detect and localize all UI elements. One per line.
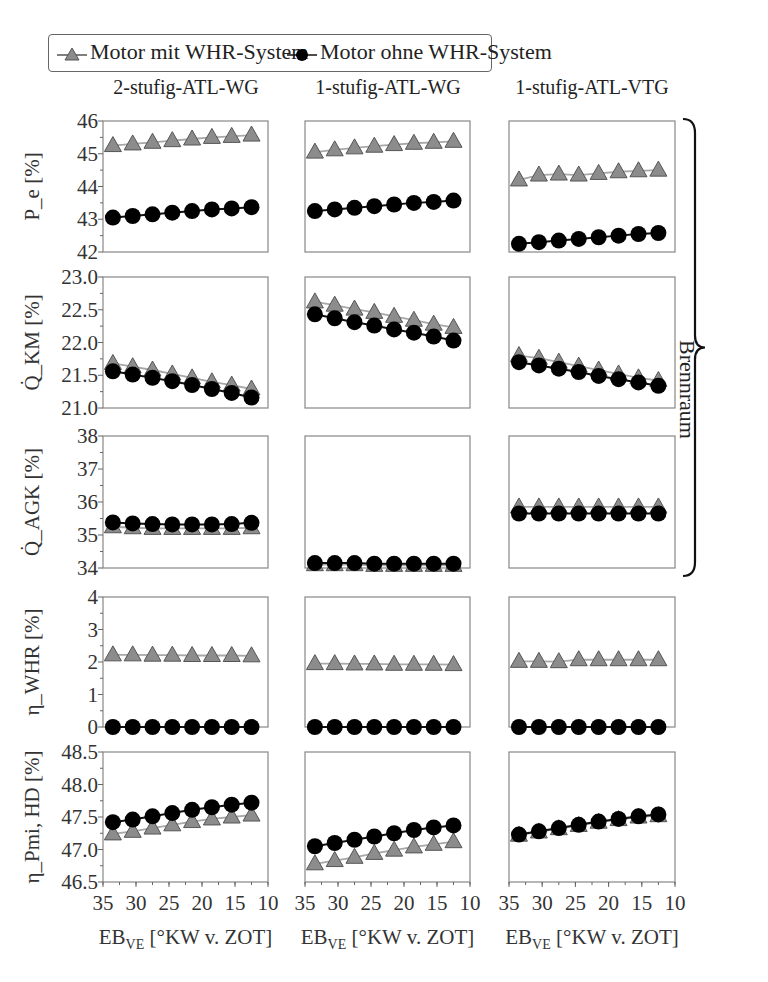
circle-marker	[204, 799, 220, 815]
y-tick-label: 45	[77, 142, 98, 166]
panel-r0-c1	[305, 121, 470, 252]
circle-marker	[164, 719, 180, 735]
x-tick-label: 30	[328, 891, 349, 915]
circle-marker	[224, 719, 240, 735]
x-tick-label: 20	[394, 891, 415, 915]
circle-marker	[611, 719, 627, 735]
circle-marker	[145, 516, 161, 532]
circle-marker	[307, 555, 323, 571]
circle-marker	[164, 805, 180, 821]
circle-marker	[446, 333, 462, 349]
panel-r1-c2	[509, 277, 675, 408]
y-tick-label: 0	[88, 715, 99, 739]
y-tick-label: 42	[77, 240, 98, 264]
circle-marker	[244, 795, 260, 811]
circle-marker	[366, 317, 382, 333]
circle-marker	[650, 719, 666, 735]
circle-marker	[426, 819, 442, 835]
circle-marker	[591, 719, 607, 735]
panel-r1-c1	[305, 277, 470, 408]
x-tick-label: 30	[532, 891, 553, 915]
circle-marker	[551, 361, 567, 377]
x-tick-label: 20	[598, 891, 619, 915]
circle-marker	[307, 719, 323, 735]
circle-marker	[611, 506, 627, 522]
circle-marker	[307, 306, 323, 322]
y-tick-label: 47.0	[61, 838, 98, 862]
circle-marker	[204, 381, 220, 397]
circle-marker	[531, 234, 547, 250]
circle-marker	[511, 354, 527, 370]
circle-marker	[366, 198, 382, 214]
y-tick-label: 37	[77, 457, 98, 481]
panel-r2-c2	[509, 436, 675, 568]
circle-marker	[446, 556, 462, 572]
circle-marker	[511, 506, 527, 522]
circle-marker	[105, 210, 121, 226]
circle-marker	[386, 197, 402, 213]
circle-marker	[347, 555, 363, 571]
panel-r3-c0	[98, 597, 268, 735]
circle-marker	[327, 310, 343, 326]
circle-marker	[244, 199, 260, 215]
circle-marker-icon	[287, 46, 317, 62]
chart-legend: Motor mit WHR-System Motor ohne WHR-Syst…	[48, 34, 492, 72]
y-axis-label: P_e [%]	[20, 152, 44, 220]
y-tick-label: 47.5	[61, 805, 98, 829]
x-axis-label: EBVE [°KW v. ZOT]	[301, 925, 474, 952]
column-title-2-stufig-wg: 2-stufig-ATL-WG	[96, 76, 276, 99]
circle-marker	[531, 357, 547, 373]
legend-label-with-whr: Motor mit WHR-System	[90, 39, 308, 64]
circle-marker	[650, 225, 666, 241]
circle-marker	[611, 228, 627, 244]
circle-marker	[164, 373, 180, 389]
x-tick-label: 10	[460, 891, 481, 915]
circle-marker	[630, 808, 646, 824]
y-axis-label: Q̇_KM [%]	[20, 294, 44, 390]
circle-marker	[125, 208, 141, 224]
x-axis-label: EBVE [°KW v. ZOT]	[99, 925, 272, 952]
circle-marker	[406, 556, 422, 572]
circle-marker	[184, 203, 200, 219]
circle-marker	[446, 817, 462, 833]
circle-marker	[164, 516, 180, 532]
circle-marker	[347, 832, 363, 848]
column-title-1-stufig-vtg: 1-stufig-ATL-VTG	[502, 76, 682, 99]
circle-marker	[650, 506, 666, 522]
circle-marker	[184, 802, 200, 818]
circle-marker	[145, 719, 161, 735]
circle-marker	[327, 719, 343, 735]
x-tick-label: 10	[665, 891, 686, 915]
circle-marker	[426, 329, 442, 345]
circle-marker	[184, 719, 200, 735]
circle-marker	[145, 206, 161, 222]
x-tick-label: 25	[361, 891, 382, 915]
circle-marker	[327, 201, 343, 217]
x-tick-label: 25	[159, 891, 180, 915]
circle-marker	[125, 812, 141, 828]
y-tick-label: 48.5	[61, 740, 98, 764]
circle-marker	[630, 506, 646, 522]
circle-marker	[145, 808, 161, 824]
circle-marker	[366, 829, 382, 845]
x-tick-label: 35	[295, 891, 316, 915]
circle-marker	[446, 193, 462, 209]
circle-marker	[244, 719, 260, 735]
circle-marker	[406, 195, 422, 211]
brace-label-brennraum: Brennraum	[674, 340, 700, 439]
y-tick-label: 36	[77, 490, 98, 514]
circle-marker	[591, 368, 607, 384]
circle-marker	[244, 390, 260, 406]
x-tick-label: 15	[427, 891, 448, 915]
circle-marker	[327, 555, 343, 571]
circle-marker	[630, 226, 646, 242]
panel-r0-c0	[98, 121, 268, 252]
y-tick-label: 21.5	[61, 363, 98, 387]
x-tick-label: 15	[225, 891, 246, 915]
circle-marker	[551, 719, 567, 735]
circle-marker	[307, 838, 323, 854]
circle-marker	[105, 814, 121, 830]
x-tick-label: 35	[499, 891, 520, 915]
circle-marker	[184, 516, 200, 532]
circle-marker	[386, 321, 402, 337]
